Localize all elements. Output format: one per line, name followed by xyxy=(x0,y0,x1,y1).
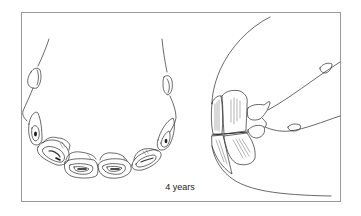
canine-left xyxy=(28,68,41,88)
lower-tooth-small xyxy=(248,125,265,138)
corner-incisor-left xyxy=(29,112,42,145)
occlusal-view xyxy=(23,39,176,178)
corner-incisor-right xyxy=(157,118,174,150)
lateral-view xyxy=(211,17,340,196)
canine-right xyxy=(163,76,172,95)
intermediate-incisor-left xyxy=(37,140,69,165)
lower-lip xyxy=(265,116,340,131)
shading xyxy=(60,142,148,160)
upper-tooth-small xyxy=(247,102,270,121)
upper-lip xyxy=(268,62,340,110)
figure-caption: 4 years xyxy=(150,182,210,192)
jaw-outline-left xyxy=(23,39,49,121)
jaw-curve xyxy=(212,17,270,104)
upper-incisor xyxy=(222,90,247,134)
chin-curve xyxy=(212,146,331,196)
